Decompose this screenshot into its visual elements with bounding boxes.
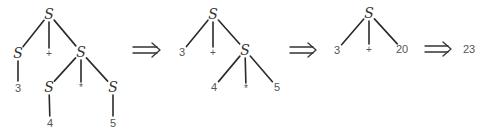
nonterminal-node: S <box>240 42 250 58</box>
terminal-node: 3 <box>15 82 21 94</box>
tree-edge <box>86 58 107 81</box>
terminal-node: 5 <box>110 117 116 129</box>
operator-node: * <box>244 83 248 94</box>
tree-2-edges <box>186 20 272 83</box>
operator-node: + <box>366 44 372 55</box>
operator-node: + <box>210 47 216 58</box>
operator-node: + <box>46 48 52 59</box>
tree-edge <box>250 56 272 82</box>
tree-3-edges <box>342 19 398 45</box>
terminal-node: 3 <box>179 46 185 58</box>
nonterminal-node: S <box>44 79 54 95</box>
tree-edge <box>374 19 397 44</box>
terminal-node: 4 <box>47 117 53 129</box>
tree-1-nodes: SS+S3S*S45 <box>13 6 118 129</box>
tree-edge <box>245 58 246 83</box>
nonterminal-node: S <box>13 45 23 61</box>
nonterminal-node: S <box>108 79 118 95</box>
tree-edge <box>54 58 75 81</box>
nonterminal-node: S <box>44 6 54 22</box>
tree-1-edges <box>18 20 113 116</box>
tree-edge <box>49 95 50 116</box>
terminal-node: 3 <box>334 44 340 56</box>
parse-tree-reduction-diagram: SS+S3S*S45S3+S4*5S3+20 23 <box>0 0 488 137</box>
tree-3-nodes: S3+20 <box>334 5 408 56</box>
tree-edge <box>54 20 76 46</box>
terminal-node: 20 <box>396 43 408 55</box>
tree-edge <box>23 20 44 46</box>
tree-edge <box>218 20 239 44</box>
nonterminal-node: S <box>76 44 86 60</box>
operator-node: * <box>79 82 83 93</box>
tree-edge <box>218 56 239 82</box>
tree-2-nodes: S3+S4*5 <box>179 6 280 94</box>
double-arrow-icon <box>290 43 316 57</box>
tree-edges <box>18 19 397 116</box>
tree-edge <box>342 19 364 45</box>
nonterminal-node: S <box>364 5 374 21</box>
tree-edge <box>186 20 208 46</box>
double-arrow-icon <box>425 42 451 56</box>
final-result-value: 23 <box>463 43 475 55</box>
tree-nodes: SS+S3S*S45S3+S4*5S3+20 <box>13 5 408 129</box>
terminal-node: 5 <box>274 81 280 93</box>
nonterminal-node: S <box>208 6 218 22</box>
double-arrow-icon <box>133 43 160 57</box>
terminal-node: 4 <box>211 81 217 93</box>
